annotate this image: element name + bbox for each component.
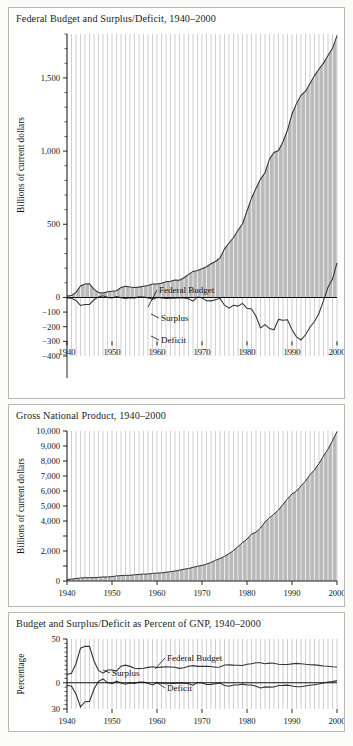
- panel-title-federal-budget: Federal Budget and Surplus/Deficit, 1940…: [9, 8, 344, 26]
- svg-text:1950: 1950: [103, 347, 120, 357]
- svg-text:Surplus: Surplus: [161, 313, 189, 323]
- svg-text:Percentage: Percentage: [16, 654, 26, 695]
- svg-text:1960: 1960: [148, 716, 165, 726]
- svg-text:1970: 1970: [193, 347, 210, 357]
- svg-text:Deficit: Deficit: [167, 683, 192, 693]
- panel-title-gross-national-product: Gross National Product, 1940–2000: [9, 405, 344, 423]
- svg-text:Surplus: Surplus: [112, 668, 140, 678]
- svg-text:Federal Budget: Federal Budget: [159, 285, 215, 295]
- svg-text:6,000: 6,000: [41, 486, 60, 496]
- svg-text:50: 50: [51, 634, 60, 644]
- svg-text:0: 0: [56, 576, 60, 586]
- svg-text:1970: 1970: [193, 716, 210, 726]
- svg-text:1940: 1940: [58, 716, 75, 726]
- chart-svg-federal-budget: 1,5001,0005000−100−200−300−400Billions o…: [9, 26, 344, 398]
- svg-text:1940: 1940: [58, 588, 75, 598]
- svg-text:1,000: 1,000: [41, 146, 60, 156]
- chart-svg-percent-of-gnp: 50030Percentage1940195019601970198019902…: [9, 631, 344, 732]
- svg-text:5,000: 5,000: [41, 501, 60, 511]
- svg-text:1990: 1990: [283, 347, 300, 357]
- svg-text:1950: 1950: [103, 716, 120, 726]
- svg-text:−400: −400: [42, 351, 60, 361]
- svg-text:10,000: 10,000: [36, 426, 60, 436]
- svg-text:2,000: 2,000: [41, 546, 60, 556]
- plot-federal-budget: 1,5001,0005000−100−200−300−400Billions o…: [9, 26, 344, 398]
- svg-text:1990: 1990: [283, 588, 300, 598]
- plot-percent-of-gnp: 50030Percentage1940195019601970198019902…: [9, 631, 344, 732]
- svg-text:Billions of current dollars: Billions of current dollars: [16, 458, 26, 554]
- svg-text:1940: 1940: [58, 347, 75, 357]
- svg-text:−200: −200: [42, 322, 60, 332]
- svg-text:1950: 1950: [103, 588, 120, 598]
- panel-gross-national-product: Gross National Product, 1940–2000 10,000…: [8, 404, 345, 607]
- svg-text:1,500: 1,500: [41, 73, 60, 83]
- svg-text:1970: 1970: [193, 588, 210, 598]
- svg-text:−300: −300: [42, 336, 60, 346]
- panel-percent-of-gnp: Budget and Surplus/Deficit as Percent of…: [8, 612, 345, 732]
- chart-svg-gross-national-product: 10,0009,0008,0007,0006,0005,0004,0002,00…: [9, 423, 344, 607]
- figure-page: Federal Budget and Surplus/Deficit, 1940…: [0, 0, 353, 746]
- svg-text:7,000: 7,000: [41, 471, 60, 481]
- svg-text:4,000: 4,000: [41, 516, 60, 526]
- svg-text:0: 0: [56, 292, 60, 302]
- svg-text:8,000: 8,000: [41, 456, 60, 466]
- svg-text:1960: 1960: [148, 347, 165, 357]
- svg-text:−100: −100: [42, 307, 60, 317]
- svg-text:2000: 2000: [328, 347, 344, 357]
- svg-text:0: 0: [56, 678, 60, 688]
- svg-text:2000: 2000: [328, 716, 344, 726]
- svg-text:1980: 1980: [238, 588, 255, 598]
- svg-text:Deficit: Deficit: [161, 335, 186, 345]
- svg-text:30: 30: [51, 704, 60, 714]
- svg-text:1960: 1960: [148, 588, 165, 598]
- svg-text:1990: 1990: [283, 716, 300, 726]
- svg-text:Federal Budget: Federal Budget: [167, 653, 223, 663]
- panel-federal-budget: Federal Budget and Surplus/Deficit, 1940…: [8, 7, 345, 399]
- svg-text:500: 500: [47, 219, 60, 229]
- panel-title-percent-of-gnp: Budget and Surplus/Deficit as Percent of…: [9, 613, 344, 631]
- plot-gross-national-product: 10,0009,0008,0007,0006,0005,0004,0002,00…: [9, 423, 344, 607]
- svg-text:9,000: 9,000: [41, 441, 60, 451]
- svg-text:1980: 1980: [238, 347, 255, 357]
- svg-text:Billions of current dollars: Billions of current dollars: [16, 117, 26, 213]
- svg-text:1980: 1980: [238, 716, 255, 726]
- svg-text:2000: 2000: [328, 588, 344, 598]
